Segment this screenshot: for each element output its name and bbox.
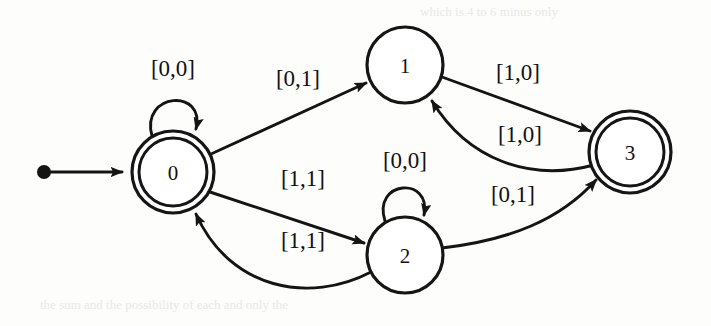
state-node-2[interactable]: 2 xyxy=(367,217,443,293)
edge-label-2-2: [0,0] xyxy=(383,148,427,173)
state-2-label: 2 xyxy=(400,244,411,268)
state-node-1[interactable]: 1 xyxy=(367,27,443,103)
edge-label-2-3: [0,1] xyxy=(491,182,535,207)
edge-label-0-0: [0,0] xyxy=(151,56,195,81)
edge-label-0-2: [1,1] xyxy=(281,166,325,191)
state-node-0[interactable]: 0 xyxy=(132,131,214,213)
state-1-label: 1 xyxy=(400,54,411,78)
state-0-label: 0 xyxy=(168,161,179,185)
edge-label-3-1: [1,0] xyxy=(498,122,542,147)
transition-0-to-1[interactable] xyxy=(211,83,366,154)
edge-label-1-3: [1,0] xyxy=(496,60,540,85)
state-3-label: 3 xyxy=(625,141,636,165)
edge-label-0-1: [0,1] xyxy=(276,66,320,91)
state-node-3[interactable]: 3 xyxy=(589,111,671,193)
diagram-canvas: 0 1 2 3 [0,0] [0,1] [1,1] [1,1] [0,0] [1… xyxy=(0,0,711,326)
state-diagram: 0 1 2 3 [0,0] [0,1] [1,1] [1,1] [0,0] [1… xyxy=(0,0,711,326)
start-arrow xyxy=(37,165,122,179)
edge-label-2-0: [1,1] xyxy=(281,228,325,253)
edge-path-0-1 xyxy=(211,83,366,154)
